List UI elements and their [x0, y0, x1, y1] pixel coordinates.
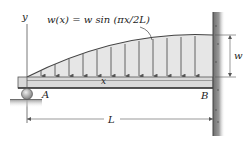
support-label-a: A: [41, 89, 49, 100]
span-length-label: L: [107, 114, 115, 125]
roller-support: [22, 89, 33, 100]
fixed-wall: [213, 12, 225, 136]
beam-diagram: y x w(x) = w sin (πx/2L) A B w L: [0, 0, 246, 143]
beam: [18, 77, 213, 88]
y-axis-label: y: [21, 11, 28, 22]
support-label-b: B: [200, 90, 208, 101]
ground-hatch: [10, 100, 42, 108]
load-equation: w(x) = w sin (πx/2L): [47, 14, 150, 25]
load-magnitude-label: w: [234, 50, 243, 61]
x-axis-label: x: [101, 76, 106, 86]
